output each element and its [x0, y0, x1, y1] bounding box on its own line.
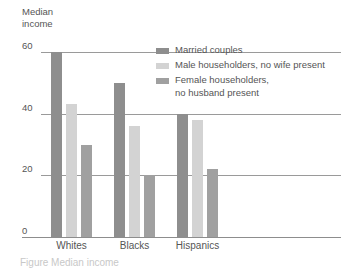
bar — [177, 114, 188, 237]
legend-label: Married couples — [175, 44, 243, 57]
bar — [114, 83, 125, 237]
bar — [207, 169, 218, 237]
y-axis-tick-label: 60 — [22, 40, 40, 51]
y-axis-tick-label: 20 — [22, 163, 40, 174]
legend-swatch-icon — [156, 78, 169, 84]
axis-baseline — [22, 237, 341, 238]
x-axis-category-label: Hispanics — [157, 240, 238, 251]
bar — [66, 104, 77, 237]
legend-swatch-icon — [156, 48, 169, 54]
bar — [81, 145, 92, 238]
legend-label: Male householders, no wife present — [175, 59, 325, 72]
y-axis-tick-label: 0 — [22, 225, 40, 236]
legend-item: Male householders, no wife present — [156, 59, 325, 72]
bar — [192, 120, 203, 237]
y-axis-tick-label: 40 — [22, 102, 40, 113]
chart-legend: Married couplesMale householders, no wif… — [156, 44, 325, 102]
legend-label: Female householders, no husband present — [175, 74, 269, 99]
legend-swatch-icon — [156, 63, 169, 69]
y-axis-title: Median income — [22, 6, 53, 29]
legend-item: Female householders, no husband present — [156, 74, 325, 99]
bar — [51, 52, 62, 237]
bar — [129, 126, 140, 237]
gridline — [41, 114, 341, 115]
legend-item: Married couples — [156, 44, 325, 57]
figure-caption: Figure Median income — [20, 257, 119, 268]
bar — [144, 175, 155, 237]
